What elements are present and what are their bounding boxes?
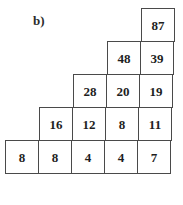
pyramid-cell: 16	[39, 107, 73, 141]
pyramid-cell: 7	[137, 140, 171, 174]
pyramid-cell: 8	[5, 140, 39, 174]
pyramid-row-4: 16 12 8 11	[39, 107, 178, 141]
pyramid-cell: 48	[107, 41, 141, 75]
pyramid-row-1: 87	[141, 8, 178, 42]
pyramid-cell: 8	[105, 107, 139, 141]
pyramid-cell: 87	[141, 8, 175, 42]
pyramid-cell: 12	[72, 107, 106, 141]
pyramid-grid: 87 48 39 28 20 19 16 12 8 11 8 8 4 4 7	[5, 8, 178, 174]
pyramid-cell: 11	[138, 107, 172, 141]
pyramid-cell: 20	[106, 74, 140, 108]
pyramid-cell: 8	[38, 140, 72, 174]
pyramid-row-2: 48 39	[107, 41, 178, 75]
pyramid-cell: 19	[139, 74, 173, 108]
pyramid-cell: 4	[104, 140, 138, 174]
pyramid-row-5: 8 8 4 4 7	[5, 140, 178, 174]
pyramid-row-3: 28 20 19	[73, 74, 178, 108]
number-pyramid-figure: b) 87 48 39 28 20 19 16 12 8 11 8 8 4 4 …	[0, 0, 183, 205]
pyramid-cell: 28	[73, 74, 107, 108]
pyramid-cell: 39	[140, 41, 174, 75]
pyramid-cell: 4	[71, 140, 105, 174]
